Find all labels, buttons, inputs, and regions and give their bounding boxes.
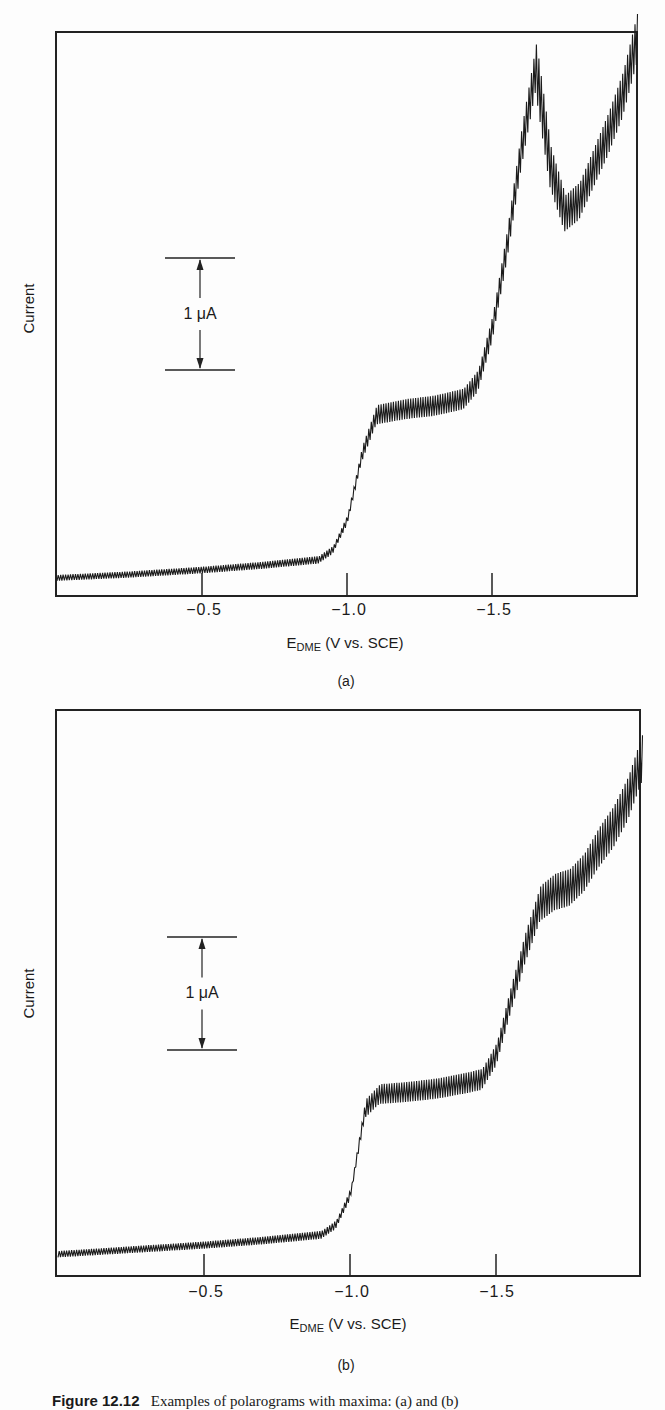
x-axis-label-b-main: E [290, 1315, 300, 1332]
scale-bar-label-b: 1 μA [185, 982, 218, 1004]
x-axis-label-b-sub: DME [300, 1322, 324, 1334]
x-axis-label-b-rest: (V vs. SCE) [324, 1315, 407, 1332]
x-axis-label-b: EDME (V vs. SCE) [290, 1315, 407, 1334]
figure-caption-text: Examples of polarograms with maxima: (a)… [151, 1393, 459, 1409]
figure-caption-label: Figure 12.12 [52, 1392, 140, 1409]
polarogram-trace [58, 735, 643, 1257]
x-tick-label-b-1: −0.5 [188, 1283, 224, 1301]
plot-area-b [0, 0, 665, 1380]
chart-panel-b: Current 1 μA −0.5 −1.0 −1.5 EDME (V vs. … [0, 0, 665, 1380]
x-tick-label-b-2: −1.0 [334, 1283, 370, 1301]
figure-caption: Figure 12.12 Examples of polarograms wit… [52, 1392, 459, 1410]
y-axis-label-b: Current [20, 964, 37, 1024]
arrowhead-up-icon [199, 938, 206, 949]
panel-label-b: (b) [337, 1357, 354, 1373]
arrowhead-down-icon [199, 1038, 206, 1049]
x-tick-label-b-3: −1.5 [479, 1283, 515, 1301]
